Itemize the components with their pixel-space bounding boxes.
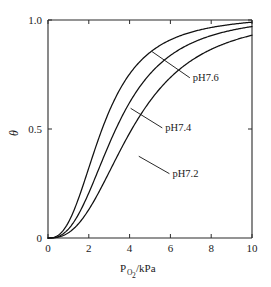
- curve-pH7-2: [48, 35, 252, 238]
- x-tick-label-1: 2: [86, 242, 92, 254]
- x-axis-tick-labels: 0246810: [45, 242, 258, 254]
- curve-pH7-4: [48, 27, 252, 238]
- series-label-pH7-4: pH7.4: [165, 122, 192, 133]
- chart-figure: 0246810 00.51.0 pH7.6pH7.4pH7.2 θ P O 2 …: [0, 0, 271, 287]
- y-tick-label-2: 1.0: [28, 14, 42, 26]
- y-axis-tick-labels: 00.51.0: [28, 14, 42, 244]
- x-tick-label-2: 4: [127, 242, 133, 254]
- x-tick-label-0: 0: [45, 242, 51, 254]
- data-curves: [48, 22, 252, 238]
- series-annotations: pH7.6pH7.4pH7.2: [131, 52, 219, 180]
- x-tick-label-4: 8: [208, 242, 214, 254]
- x-tick-label-5: 10: [247, 242, 259, 254]
- series-label-pH7-6: pH7.6: [193, 72, 219, 83]
- x-axis-title-main: P: [120, 262, 126, 274]
- y-tick-label-0: 0: [37, 232, 43, 244]
- x-axis-title: P O 2 /kPa: [120, 262, 156, 280]
- x-tick-label-3: 6: [168, 242, 174, 254]
- y-tick-label-1: 0.5: [28, 123, 42, 135]
- x-axis-title-tail: /kPa: [136, 262, 156, 274]
- leader-line-pH7-4: [131, 108, 163, 128]
- oxygen-dissociation-chart: 0246810 00.51.0 pH7.6pH7.4pH7.2 θ P O 2 …: [0, 0, 271, 287]
- leader-line-pH7-2: [139, 156, 170, 173]
- series-label-pH7-2: pH7.2: [172, 168, 198, 179]
- y-axis-title: θ: [7, 130, 21, 136]
- curve-pH7-6: [48, 22, 252, 238]
